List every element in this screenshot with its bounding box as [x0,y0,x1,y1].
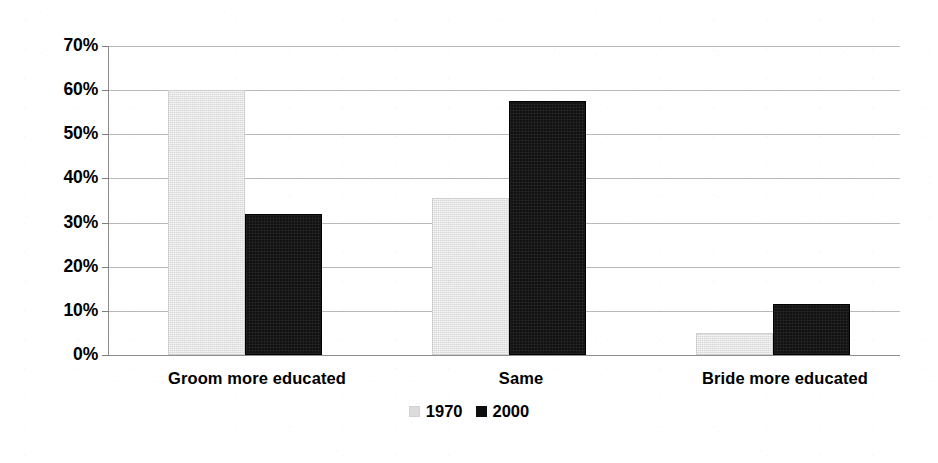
x-axis-label-groom-more-educated: Groom more educated [149,369,365,388]
plot-area [108,46,900,355]
y-tick-70 [102,46,109,47]
bar-1970-bride-more-educated [696,333,773,355]
legend-item-1970: 1970 [409,403,463,420]
y-tick-10 [102,311,109,312]
y-axis-line [108,46,109,356]
legend-label-1970: 1970 [426,403,463,420]
y-tick-20 [102,267,109,268]
axis-baseline [108,355,900,356]
y-tick-40 [102,178,109,179]
y-axis-label-50: 50% [2,125,98,143]
y-tick-30 [102,223,109,224]
bar-2000-groom-more-educated [245,214,322,355]
y-axis-label-0: 0% [2,346,98,364]
y-axis-label-30: 30% [2,214,98,232]
gridline-70 [108,46,900,47]
legend-swatch-1970-icon [409,406,420,417]
y-axis-label-70: 70% [2,37,98,55]
legend-swatch-2000-icon [476,406,487,417]
y-tick-60 [102,90,109,91]
y-axis-label-20: 20% [2,258,98,276]
legend-item-2000: 2000 [476,403,530,420]
bar-2000-same [509,101,586,355]
y-axis-label-60: 60% [2,81,98,99]
bar-chart: 70% 60% 50% 40% 30% 20% 10% 0% Groom mor… [0,0,938,463]
y-axis-label-40: 40% [2,169,98,187]
bar-2000-bride-more-educated [773,304,850,355]
y-tick-50 [102,134,109,135]
x-axis-label-bride-more-educated: Bride more educated [677,369,893,388]
y-axis-labels: 70% 60% 50% 40% 30% 20% 10% 0% [0,0,98,463]
y-axis-label-10: 10% [2,302,98,320]
legend-label-2000: 2000 [493,403,530,420]
chart-legend: 1970 2000 [0,403,938,420]
x-axis-label-same: Same [413,369,629,388]
y-tick-0 [102,355,109,356]
bar-1970-groom-more-educated [168,90,245,355]
bar-1970-same [432,198,509,355]
